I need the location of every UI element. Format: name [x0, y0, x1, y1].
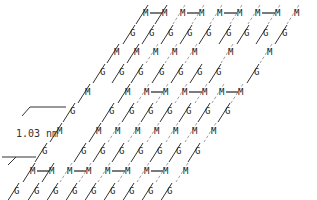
- metal-atom-label: M: [237, 8, 243, 18]
- metal-atom-label: M: [294, 8, 300, 18]
- metal-atom-label: M: [86, 166, 92, 176]
- metal-atom-label: M: [30, 166, 36, 176]
- metal-atom-label: M: [275, 8, 281, 18]
- metal-atom-label: M: [143, 8, 149, 18]
- metal-atom-label: M: [153, 47, 159, 57]
- metal-atom-label: M: [134, 47, 140, 57]
- guanine-label: G: [130, 28, 135, 38]
- guanine-label: G: [197, 67, 202, 77]
- guanine-label: G: [119, 67, 124, 77]
- guanine-label: G: [186, 106, 191, 116]
- guanine-label: G: [138, 146, 143, 156]
- guanine-label: G: [157, 146, 162, 156]
- guanine-label: G: [216, 67, 221, 77]
- metal-atom-label: M: [85, 87, 91, 97]
- guanine-label: G: [206, 28, 211, 38]
- metal-atom-label: M: [267, 47, 273, 57]
- metal-atom-label: M: [172, 47, 178, 57]
- guanine-label: G: [159, 67, 164, 77]
- metal-atom-label: M: [180, 8, 186, 18]
- metal-atom-label: M: [211, 126, 217, 136]
- metal-atom-label: M: [192, 126, 198, 136]
- metal-atom-label: M: [163, 87, 169, 97]
- metal-atom-label: M: [67, 166, 73, 176]
- metal-atom-label: M: [202, 87, 208, 97]
- guanine-label: G: [100, 67, 105, 77]
- guanine-label: G: [34, 186, 39, 196]
- metal-atom-label: M: [125, 166, 131, 176]
- guanine-label: G: [226, 28, 231, 38]
- guanine-label: G: [176, 146, 181, 156]
- guanine-label: G: [263, 28, 268, 38]
- guanine-label: G: [148, 186, 153, 196]
- metal-atom-label: M: [105, 166, 111, 176]
- metal-atom-label: M: [162, 8, 168, 18]
- guanine-label: G: [178, 67, 183, 77]
- guanine-label: G: [187, 28, 192, 38]
- guanine-label: G: [282, 28, 287, 38]
- metal-atom-label: M: [228, 47, 234, 57]
- guanine-label: G: [72, 186, 77, 196]
- guanine-label: G: [195, 146, 200, 156]
- guanine-label: G: [14, 186, 19, 196]
- metal-atom-label: M: [49, 166, 55, 176]
- metal-atom-label: M: [183, 166, 189, 176]
- guanine-label: G: [91, 186, 96, 196]
- scale-bar-bottom-arrow: [8, 157, 16, 165]
- metal-atom-label: M: [173, 126, 179, 136]
- metal-atom-label: M: [96, 126, 102, 136]
- guanine-label: G: [109, 106, 114, 116]
- metal-atom-label: M: [154, 126, 160, 136]
- molecular-lattice-diagram: MMMMMMMMMGGGGGGGGGMMMMMMMGGGGGGGGMMMMMMM…: [0, 0, 317, 200]
- metal-atom-label: M: [217, 8, 223, 18]
- guanine-label: G: [53, 186, 58, 196]
- guanine-label: G: [225, 106, 230, 116]
- metal-atom-label: M: [255, 8, 261, 18]
- guanine-label: G: [70, 106, 75, 116]
- metal-atom-label: M: [125, 87, 131, 97]
- guanine-label: G: [167, 186, 172, 196]
- scale-bar-top-arrow: [22, 107, 30, 116]
- metal-atom-label: M: [192, 47, 198, 57]
- scale-bar: 1.03 nm: [2, 107, 66, 165]
- guanine-label: G: [129, 186, 134, 196]
- guanine-label: G: [244, 28, 249, 38]
- guanine-label: G: [100, 146, 105, 156]
- scale-bar-label: 1.03 nm: [16, 128, 58, 139]
- guanine-label: G: [148, 106, 153, 116]
- guanine-label: G: [119, 146, 124, 156]
- metal-atom-label: M: [199, 8, 205, 18]
- metal-atom-label: M: [163, 166, 169, 176]
- metal-atom-label: M: [144, 87, 150, 97]
- guanine-label: G: [149, 28, 154, 38]
- guanine-label: G: [129, 106, 134, 116]
- metal-atom-label: M: [114, 47, 120, 57]
- metal-atom-label: M: [219, 87, 225, 97]
- guanine-label: G: [168, 28, 173, 38]
- guanine-label: G: [110, 186, 115, 196]
- metal-atom-label: M: [115, 126, 121, 136]
- guanine-label: G: [167, 106, 172, 116]
- guanine-label: G: [42, 146, 47, 156]
- metal-atom-label: M: [238, 87, 244, 97]
- guanine-label: G: [205, 106, 210, 116]
- metal-atom-label: M: [182, 87, 188, 97]
- metal-atom-label: M: [144, 166, 150, 176]
- metal-atom-label: M: [135, 126, 141, 136]
- guanine-label: G: [138, 67, 143, 77]
- guanine-label: G: [81, 146, 86, 156]
- guanine-label: G: [254, 67, 259, 77]
